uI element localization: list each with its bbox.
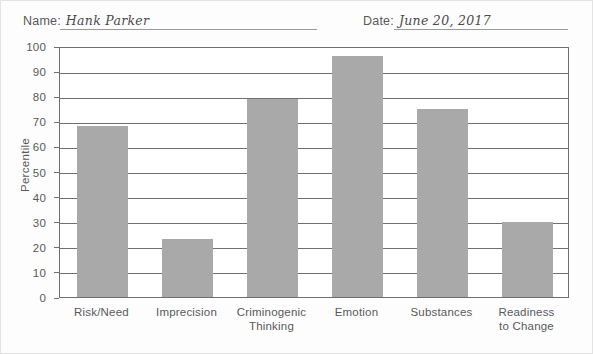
- y-tick-label: 60: [18, 141, 46, 153]
- x-tick-label-line: Thinking: [229, 319, 314, 333]
- bar: [162, 239, 213, 297]
- gridline: [60, 223, 568, 224]
- y-tick-label: 100: [18, 41, 46, 53]
- gridline: [60, 148, 568, 149]
- x-tick-label-line: to Change: [484, 319, 569, 333]
- plot-area: [59, 47, 569, 298]
- bar: [77, 126, 128, 297]
- y-tick-label: 50: [18, 167, 46, 179]
- y-tick-label: 90: [18, 66, 46, 78]
- y-tick-label: 30: [18, 217, 46, 229]
- gridline: [60, 173, 568, 174]
- gridline: [60, 273, 568, 274]
- x-tick-label: Readinessto Change: [484, 305, 569, 333]
- y-tick-label: 80: [18, 91, 46, 103]
- x-tick-label-line: Emotion: [314, 305, 399, 319]
- gridline: [60, 248, 568, 249]
- bar: [502, 222, 553, 297]
- worksheet-page: Name: Hank Parker Date: June 20, 2017 Pe…: [0, 0, 593, 354]
- bar: [417, 109, 468, 297]
- x-tick-label-line: Readiness: [484, 305, 569, 319]
- y-tick-label: 70: [18, 116, 46, 128]
- x-tick-label: Emotion: [314, 305, 399, 319]
- bar: [332, 56, 383, 297]
- x-tick-label: Risk/Need: [59, 305, 144, 319]
- y-axis-tick-labels: 1009080706050403020100: [18, 47, 46, 298]
- x-tick-label-line: Imprecision: [144, 305, 229, 319]
- x-tick-label-line: Substances: [399, 305, 484, 319]
- percentile-bar-chart: Percentile 1009080706050403020100 Risk/N…: [1, 1, 593, 354]
- x-tick-label-line: Risk/Need: [59, 305, 144, 319]
- x-tick-label-line: Criminogenic: [229, 305, 314, 319]
- y-tick-label: 10: [18, 267, 46, 279]
- y-tick-label: 20: [18, 242, 46, 254]
- gridline: [60, 98, 568, 99]
- x-tick-label: Imprecision: [144, 305, 229, 319]
- x-tick-label: CriminogenicThinking: [229, 305, 314, 333]
- y-tick-label: 40: [18, 192, 46, 204]
- gridline: [60, 123, 568, 124]
- gridline: [60, 198, 568, 199]
- gridline: [60, 73, 568, 74]
- bar: [247, 99, 298, 297]
- y-tick-label: 0: [18, 292, 46, 304]
- x-tick-label: Substances: [399, 305, 484, 319]
